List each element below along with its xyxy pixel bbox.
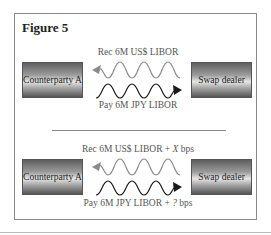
right-arrowhead-icon [173, 182, 182, 192]
swap-dealer-box: Swap dealer [191, 159, 252, 195]
left-arrowhead-icon [92, 162, 101, 171]
receive-wave-arrow [98, 159, 180, 175]
label-prefix: Pay 6M JPY LIBOR + [84, 198, 173, 208]
pay-wave-arrow [96, 181, 176, 195]
cashflow-waves [90, 157, 185, 199]
pay-wave-arrow [96, 84, 176, 98]
pay-leg-label-spread: Pay 6M JPY LIBOR + ? bps [84, 198, 193, 208]
divider [52, 130, 226, 131]
swap-dealer-box: Swap dealer [191, 62, 252, 98]
label-suffix: bps [178, 144, 194, 154]
counterparty-a-box: Counterparty A [22, 159, 83, 195]
swap-dealer-label: Swap dealer [198, 172, 245, 183]
page-rule [0, 232, 271, 233]
label-prefix: Rec 6M US$ LIBOR + [82, 144, 173, 154]
right-arrowhead-icon [173, 85, 182, 95]
cashflow-waves [90, 60, 185, 102]
label-suffix: bps [177, 198, 193, 208]
left-arrowhead-icon [92, 65, 101, 74]
counterparty-a-label: Counterparty A [23, 75, 82, 86]
counterparty-a-box: Counterparty A [22, 62, 83, 98]
counterparty-a-label: Counterparty A [23, 172, 82, 183]
figure-title: Figure 5 [22, 20, 68, 36]
receive-leg-label-spread: Rec 6M US$ LIBOR + X bps [82, 144, 194, 154]
receive-leg-label: Rec 6M US$ LIBOR [98, 47, 179, 57]
pay-leg-label: Pay 6M JPY LIBOR [99, 100, 178, 110]
receive-wave-arrow [98, 62, 180, 78]
swap-dealer-label: Swap dealer [198, 75, 245, 86]
